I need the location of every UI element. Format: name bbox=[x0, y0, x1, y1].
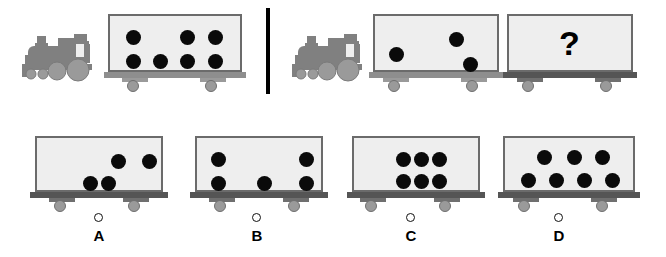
cargo-dot bbox=[257, 176, 272, 191]
car-wheel bbox=[288, 200, 300, 212]
car-body bbox=[373, 14, 499, 72]
option-a-radio[interactable] bbox=[94, 213, 103, 222]
cargo-dot bbox=[180, 30, 195, 45]
car-wheel bbox=[388, 80, 400, 92]
car-wheel bbox=[518, 200, 530, 212]
cargo-dot bbox=[111, 154, 126, 169]
locomotive-right bbox=[292, 30, 378, 82]
option-d-label: D bbox=[549, 228, 569, 243]
cargo-dot bbox=[432, 152, 447, 167]
car-wheel bbox=[54, 200, 66, 212]
cargo-dot bbox=[567, 150, 582, 165]
cargo-dot bbox=[463, 57, 478, 72]
train-car-right-1 bbox=[373, 14, 499, 88]
option-c-car[interactable] bbox=[352, 136, 480, 212]
locomotive-left bbox=[22, 30, 108, 82]
cargo-dot bbox=[211, 152, 226, 167]
cargo-dot bbox=[432, 174, 447, 189]
car-wheel bbox=[214, 200, 226, 212]
train-car-left-1 bbox=[108, 14, 242, 88]
cargo-dot bbox=[605, 173, 620, 188]
car-wheel bbox=[205, 80, 217, 92]
car-wheel bbox=[522, 80, 534, 92]
cargo-dot bbox=[537, 150, 552, 165]
cargo-dot bbox=[142, 154, 157, 169]
cargo-dot bbox=[153, 54, 168, 69]
cargo-dot bbox=[101, 176, 116, 191]
cargo-dot bbox=[577, 173, 592, 188]
car-wheel bbox=[365, 200, 377, 212]
car-wheel bbox=[466, 80, 478, 92]
option-d-car[interactable] bbox=[503, 136, 635, 212]
cargo-dot bbox=[389, 47, 404, 62]
option-c-label: C bbox=[401, 228, 421, 243]
cargo-dot bbox=[126, 30, 141, 45]
cargo-dot bbox=[449, 32, 464, 47]
puzzle-canvas: ? A B C bbox=[0, 0, 666, 257]
car-wheel bbox=[439, 200, 451, 212]
option-a-car[interactable] bbox=[35, 136, 163, 212]
question-mark: ? bbox=[559, 26, 580, 60]
option-c-radio[interactable] bbox=[406, 213, 415, 222]
car-wheel bbox=[596, 200, 608, 212]
option-b-label: B bbox=[247, 228, 267, 243]
option-b-radio[interactable] bbox=[252, 213, 261, 222]
cargo-dot bbox=[299, 176, 314, 191]
cargo-dot bbox=[180, 54, 195, 69]
cargo-dot bbox=[414, 152, 429, 167]
car-wheel bbox=[600, 80, 612, 92]
cargo-dot bbox=[126, 54, 141, 69]
cargo-dot bbox=[549, 173, 564, 188]
panel-divider bbox=[266, 8, 270, 94]
car-wheel bbox=[128, 200, 140, 212]
cargo-dot bbox=[595, 150, 610, 165]
option-b-car[interactable] bbox=[195, 136, 323, 212]
cargo-dot bbox=[208, 30, 223, 45]
cargo-dot bbox=[208, 54, 223, 69]
cargo-dot bbox=[396, 174, 411, 189]
cargo-dot bbox=[521, 173, 536, 188]
cargo-dot bbox=[299, 152, 314, 167]
car-wheel bbox=[127, 80, 139, 92]
option-d-radio[interactable] bbox=[554, 213, 563, 222]
cargo-dot bbox=[396, 152, 411, 167]
option-a-label: A bbox=[89, 228, 109, 243]
cargo-dot bbox=[414, 174, 429, 189]
cargo-dot bbox=[211, 176, 226, 191]
cargo-dot bbox=[83, 176, 98, 191]
train-car-question: ? bbox=[507, 14, 633, 88]
